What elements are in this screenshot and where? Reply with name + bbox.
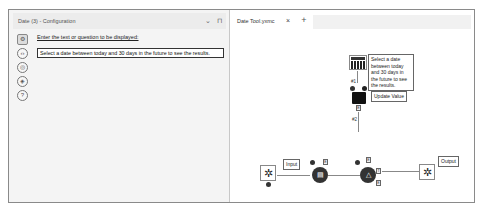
output-label: Output xyxy=(438,156,459,167)
tab-date-tool[interactable]: Date Tool.yxmc × xyxy=(233,13,294,29)
app-window: Date (3) - Configuration ⌄ ⊓ ⚙ ‹› ◎ ◈ ? … xyxy=(8,9,475,203)
panel-title: Date (3) - Configuration xyxy=(18,18,75,24)
question-anchor-icon xyxy=(350,86,355,91)
anchor-e[interactable]: E xyxy=(356,105,361,111)
connection-line xyxy=(328,175,360,176)
configuration-panel: Date (3) - Configuration ⌄ ⊓ ⚙ ‹› ◎ ◈ ? … xyxy=(9,10,230,202)
add-tab-button[interactable]: + xyxy=(297,13,311,29)
action-tool-clapper-icon[interactable] xyxy=(352,92,366,104)
connection-line xyxy=(357,71,358,83)
workflow-panel: Date Tool.yxmc × + Select a date between… xyxy=(231,10,474,202)
anchor-f[interactable]: E xyxy=(376,180,381,186)
question-label: Enter the text or question to be display… xyxy=(37,34,225,40)
connection-line xyxy=(358,112,359,132)
help-icon[interactable]: ? xyxy=(17,90,28,101)
connection-label-2: #2 xyxy=(352,117,357,122)
question-anchor-icon xyxy=(310,160,315,165)
date-tool-comment: Select a date between today and 30 days … xyxy=(368,54,414,91)
pin-icon[interactable]: ⊓ xyxy=(217,17,222,24)
input-anchor-icon xyxy=(362,86,367,91)
question-anchor-icon xyxy=(355,160,360,165)
date-tool-calendar-icon[interactable] xyxy=(349,55,367,70)
macro-input-gear-icon[interactable]: ✲ xyxy=(260,165,276,181)
config-form: Enter the text or question to be display… xyxy=(37,34,225,59)
tab-bar: Date Tool.yxmc × + xyxy=(231,13,474,29)
anchor-dot-icon xyxy=(266,182,271,187)
tab-bar-fill xyxy=(313,15,471,29)
input-label: Input xyxy=(283,159,300,170)
update-value-label: Update Value xyxy=(371,91,407,102)
tab-label: Date Tool.yxmc xyxy=(237,18,275,24)
formula-tool-icon[interactable]: ▤ xyxy=(312,167,328,183)
close-icon[interactable]: × xyxy=(286,17,290,24)
question-text-input[interactable] xyxy=(37,48,224,58)
target-icon[interactable]: ◎ xyxy=(17,62,28,73)
tag-icon[interactable]: ◈ xyxy=(17,76,28,87)
gear-icon[interactable]: ⚙ xyxy=(17,34,28,45)
workflow-canvas[interactable]: Select a date between today and 30 days … xyxy=(231,29,474,202)
chevron-down-icon[interactable]: ⌄ xyxy=(205,17,211,24)
macro-output-gear-icon[interactable]: ✲ xyxy=(419,164,435,180)
connection-label-1: #1 xyxy=(351,79,356,84)
condition-tool-icon[interactable]: △ xyxy=(360,167,376,183)
config-side-icons: ⚙ ‹› ◎ ◈ ? xyxy=(17,34,31,104)
anchor-e[interactable]: E xyxy=(366,157,371,163)
connection-line xyxy=(382,171,419,172)
code-icon[interactable]: ‹› xyxy=(17,48,28,59)
connection-line xyxy=(277,175,310,176)
anchor-e[interactable]: E xyxy=(323,159,328,165)
anchor-t[interactable]: T xyxy=(376,168,381,174)
configuration-header: Date (3) - Configuration ⌄ ⊓ xyxy=(13,13,226,29)
